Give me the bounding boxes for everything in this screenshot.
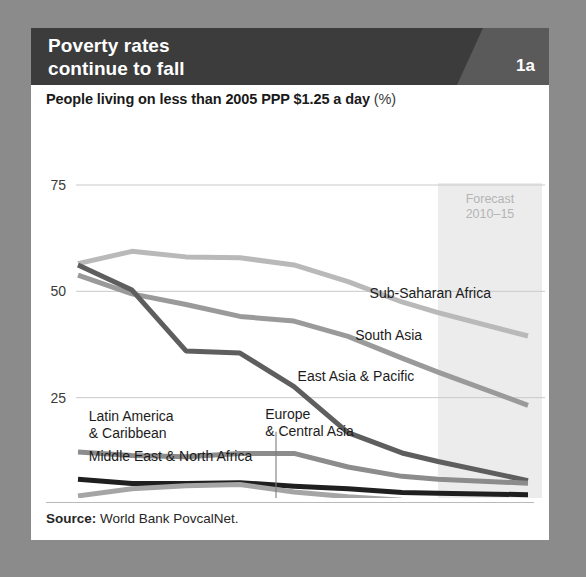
source-note: Source: World Bank PovcalNet. — [46, 511, 239, 526]
series-label: Latin America — [89, 408, 174, 424]
y-axis-tick-label: 75 — [50, 177, 66, 193]
series-label: Europe — [265, 406, 310, 422]
source-divider — [46, 502, 534, 503]
page-title: Poverty rates continue to fall — [48, 34, 378, 80]
y-axis-tick-label: 50 — [50, 283, 66, 299]
series-label: South Asia — [355, 327, 422, 343]
series-label: & Central Asia — [265, 423, 354, 439]
series-label: East Asia & Pacific — [298, 368, 415, 384]
source-text: World Bank PovcalNet. — [96, 511, 238, 526]
series-label: & Caribbean — [89, 425, 167, 441]
series-label: Middle East & North Africa — [89, 448, 253, 464]
series-label: Sub-Saharan Africa — [370, 285, 492, 301]
figure-number-badge: 1a — [516, 56, 535, 76]
subtitle-unit: (%) — [374, 91, 396, 107]
card-header: Poverty rates continue to fall 1a — [31, 28, 549, 85]
subtitle-bold: People living on less than 2005 PPP $1.2… — [46, 91, 374, 107]
chart-subtitle: People living on less than 2005 PPP $1.2… — [46, 91, 396, 107]
chart-plot-area: Forecast2010–150255075Sub-Saharan Africa… — [31, 123, 549, 498]
chart-card: Poverty rates continue to fall 1a People… — [31, 28, 549, 540]
y-axis-tick-label: 0 — [58, 496, 66, 498]
screenshot-root: Poverty rates continue to fall 1a People… — [0, 0, 586, 577]
line-chart: Forecast2010–150255075Sub-Saharan Africa… — [31, 123, 549, 498]
forecast-note-line1: Forecast — [466, 192, 515, 206]
y-axis-tick-label: 25 — [50, 390, 66, 406]
forecast-band — [438, 183, 542, 498]
forecast-note-line2: 2010–15 — [466, 207, 515, 221]
header-wedge-decoration — [457, 28, 549, 85]
source-label: Source: — [46, 511, 96, 526]
